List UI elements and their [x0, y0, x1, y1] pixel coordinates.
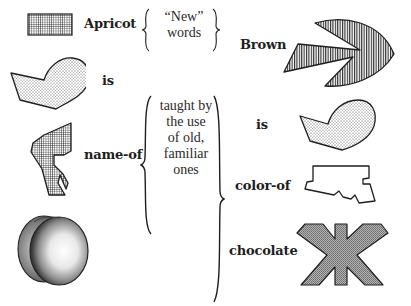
new-words-line2: words — [154, 25, 214, 41]
word-is-right: is — [256, 117, 268, 132]
new-words-line1: “New” — [154, 9, 214, 25]
left-brace-icon — [140, 8, 152, 52]
taught-line3: of old, — [152, 130, 220, 146]
gray-x-shape-icon — [295, 219, 391, 289]
word-apricot: Apricot — [84, 16, 136, 31]
right-brace-icon — [210, 8, 222, 52]
taught-line1: taught by — [152, 98, 220, 114]
large-right-brace-icon — [211, 95, 225, 303]
dotted-heart-polygon-icon — [298, 96, 378, 152]
word-is-left: is — [102, 73, 114, 88]
outline-polygon-icon — [303, 165, 381, 207]
word-chocolate: chocolate — [229, 243, 297, 258]
hatched-rectangle-icon — [27, 13, 73, 36]
dotted-heart-polygon-icon — [8, 55, 86, 111]
striped-pacman-shape-icon — [282, 12, 404, 90]
word-color-of: color-of — [235, 178, 290, 193]
apricot-fruit-drawing-icon — [14, 212, 92, 288]
taught-line5: ones — [152, 162, 220, 178]
word-brown: Brown — [240, 37, 286, 52]
new-words-note: “New” words — [154, 9, 214, 41]
hatched-irregular-shape-icon — [28, 121, 72, 197]
taught-line2: the use — [152, 114, 220, 130]
taught-line4: familiar — [152, 146, 220, 162]
word-name-of: name-of — [84, 147, 142, 162]
taught-note: taught by the use of old, familiar ones — [152, 98, 220, 178]
